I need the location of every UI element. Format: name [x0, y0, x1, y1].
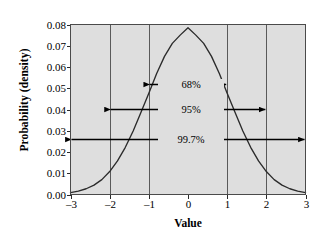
interval-label-95%: 95% — [158, 104, 224, 115]
y-axis-title: Probability (density) — [16, 0, 32, 206]
interval-percentage-labels: 68%95%99.7% — [0, 0, 332, 248]
interval-label-99.7%: 99.7% — [158, 134, 224, 145]
normal-distribution-figure: 0.000.010.020.030.040.050.060.070.08 –3–… — [0, 0, 332, 248]
x-axis-title: Value — [70, 216, 306, 230]
interval-label-68%: 68% — [158, 79, 224, 90]
